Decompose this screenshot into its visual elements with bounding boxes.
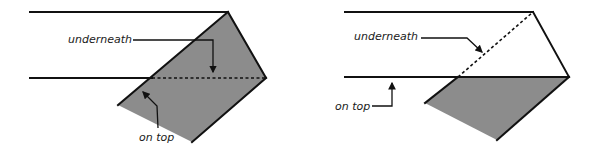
left-panel: underneath on top — [30, 12, 266, 144]
right-underneath-label: underneath — [354, 30, 418, 43]
right-strip-end-edge — [533, 12, 569, 77]
left-underneath-label: underneath — [68, 33, 132, 46]
right-panel: underneath on top — [335, 12, 569, 140]
fold-diagram: underneath on top underneath on top — [0, 0, 600, 156]
right-underneath-leader — [421, 38, 482, 52]
right-hidden-fold-edge — [458, 12, 533, 77]
right-on-top-label: on top — [335, 100, 370, 113]
right-on-top-leader — [372, 83, 392, 106]
left-on-top-label: on top — [139, 131, 174, 144]
